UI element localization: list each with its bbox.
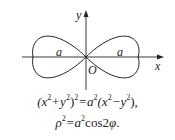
eq-part: −y — [112, 94, 127, 109]
origin-label: O — [88, 64, 97, 76]
x-axis-label: x — [155, 60, 160, 72]
eq-part: ), — [130, 94, 138, 109]
y-axis-arrow-icon — [84, 10, 89, 17]
eq-part: =a — [78, 94, 93, 109]
lemniscate-diagram — [0, 0, 175, 92]
eq-part: cos2 — [85, 115, 109, 130]
polar-equation: ρ2=a2cos2φ. — [0, 115, 175, 131]
cartesian-equation: (x2+y2)2=a2(x2−y2), — [0, 94, 175, 110]
eq-part: +y — [51, 94, 66, 109]
y-axis-label: y — [76, 9, 81, 21]
left-lobe-label: a — [56, 46, 62, 58]
eq-part: =a — [66, 115, 81, 130]
eq-part: (x — [98, 94, 108, 109]
eq-part: . — [116, 115, 119, 130]
right-lobe-label: a — [117, 46, 123, 58]
eq-part: (x — [37, 94, 47, 109]
